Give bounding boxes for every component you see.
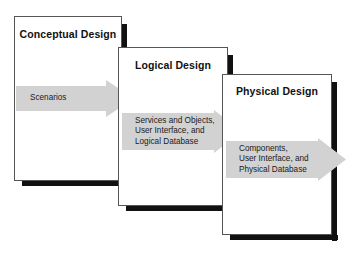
phase-title-physical-design: Physical Design [223,85,331,97]
box-shadow-bottom [126,206,234,211]
box-shadow-bottom [230,235,338,240]
phase-title-conceptual-design: Conceptual Design [15,28,121,40]
arrow-label-logical-outputs: Services and Objects, User Interface, an… [122,116,215,148]
design-phases-diagram: Conceptual Design Scenarios Logical Desi… [0,0,356,264]
arrow-scenarios: Scenarios [16,80,134,117]
box-shadow-bottom [22,181,128,186]
arrow-label-scenarios: Scenarios [16,93,66,104]
arrow-physical-outputs: Components, User Interface, and Physical… [226,138,346,181]
phase-title-logical-design: Logical Design [119,59,227,71]
arrow-label-physical-outputs: Components, User Interface, and Physical… [226,144,309,176]
